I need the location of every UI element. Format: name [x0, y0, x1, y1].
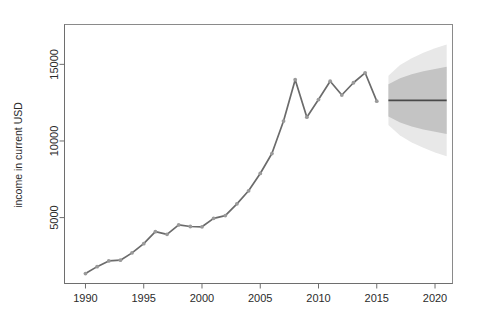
data-point — [352, 81, 356, 85]
data-point — [247, 189, 251, 193]
y-tick-label: 10000 — [49, 126, 61, 157]
data-point — [282, 119, 286, 123]
y-tick-label: 5000 — [49, 205, 61, 229]
data-point — [223, 214, 227, 218]
x-tick-label: 2005 — [248, 292, 272, 304]
plot-border — [65, 25, 453, 284]
x-tick-label: 2015 — [365, 292, 389, 304]
x-tick-label: 1990 — [73, 292, 97, 304]
x-tick-label: 2000 — [190, 292, 214, 304]
data-point — [153, 230, 157, 234]
data-point — [200, 225, 204, 229]
forecast-chart: 50001000015000 income in current USD 199… — [0, 0, 477, 330]
data-point — [293, 78, 297, 82]
data-point — [95, 265, 99, 269]
y-axis-title: income in current USD — [12, 102, 24, 208]
observed-series-line — [85, 73, 376, 274]
data-point — [258, 172, 262, 176]
data-point — [165, 232, 169, 236]
x-axis-ticks: 1990199520002005201020152020 — [73, 284, 447, 304]
data-point — [119, 258, 123, 262]
data-point — [188, 225, 192, 229]
y-axis: 50001000015000 income in current USD — [12, 25, 65, 284]
data-point — [235, 202, 239, 206]
data-point — [212, 216, 216, 220]
y-tick-label: 15000 — [49, 49, 61, 80]
y-axis-ticks: 50001000015000 — [49, 49, 65, 230]
data-point — [363, 71, 367, 75]
data-point — [177, 223, 181, 227]
data-point — [107, 259, 111, 263]
data-point — [305, 115, 309, 119]
data-point — [84, 272, 88, 276]
data-point — [317, 98, 321, 102]
data-point — [340, 93, 344, 97]
data-point — [328, 79, 332, 83]
data-point — [130, 251, 134, 255]
x-tick-label: 1995 — [131, 292, 155, 304]
x-tick-label: 2020 — [423, 292, 447, 304]
observed-series-points — [84, 71, 379, 276]
x-axis: 1990199520002005201020152020 — [65, 284, 453, 304]
data-point — [142, 242, 146, 246]
data-point — [375, 99, 379, 103]
data-point — [270, 152, 274, 156]
x-tick-label: 2010 — [306, 292, 330, 304]
chart-canvas: 50001000015000 income in current USD 199… — [0, 0, 477, 330]
